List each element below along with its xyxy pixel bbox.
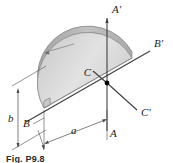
label-B-prime: B' xyxy=(154,37,164,49)
label-C-prime: C' xyxy=(141,106,151,118)
semicircular-plate-diagram: A' B' C' A B C b a xyxy=(0,0,173,163)
figure-container: A' B' C' A B C b a Fig. P9.8 xyxy=(0,0,173,163)
figure-caption: Fig. P9.8 xyxy=(6,154,45,163)
center-point-C xyxy=(105,81,110,86)
label-B: B xyxy=(23,117,30,129)
leader-B xyxy=(33,118,44,124)
label-dimension-a: a xyxy=(71,124,77,136)
axis-C-Cprime xyxy=(93,71,137,110)
label-A: A xyxy=(109,127,117,139)
label-A-prime: A' xyxy=(111,3,122,15)
label-C: C xyxy=(84,66,92,78)
label-dimension-b: b xyxy=(8,112,14,124)
